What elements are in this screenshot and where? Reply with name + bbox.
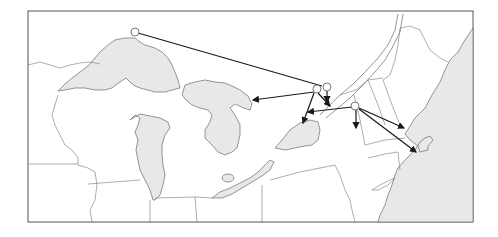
origin-st-lawrence-a (313, 85, 321, 93)
origin-central-new-york (351, 102, 359, 110)
origin-st-lawrence-b (323, 83, 331, 91)
origin-north-superior (131, 28, 139, 36)
lake-st-clair (222, 174, 234, 182)
flow-map (0, 0, 498, 237)
